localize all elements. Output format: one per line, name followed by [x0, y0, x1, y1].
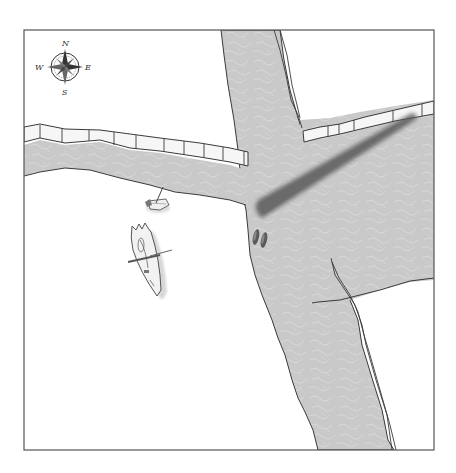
compass-east-label: E [84, 63, 91, 72]
compass-south-label: S [62, 88, 68, 97]
shipwreck [128, 223, 172, 299]
map-canvas: N S E W [0, 0, 456, 473]
small-boat [145, 187, 170, 213]
compass-west-label: W [35, 63, 44, 72]
compass-north-label: N [61, 39, 70, 48]
compass-rose: N S E W [35, 39, 91, 97]
